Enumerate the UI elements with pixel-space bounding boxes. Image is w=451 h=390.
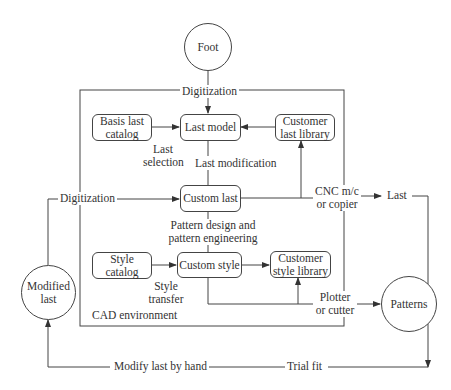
custom-last-label: Custom last	[183, 192, 238, 205]
node-foot: Foot	[184, 23, 232, 71]
modified-last-label: Modified last	[27, 280, 70, 306]
label-digitization-left: Digitization	[58, 192, 117, 205]
label-cnc-or-copier: CNC m/c or copier	[313, 185, 361, 211]
node-customer-last-library: Customer last library	[275, 114, 335, 141]
label-modify-last-by-hand: Modify last by hand	[112, 360, 209, 373]
node-patterns: Patterns	[381, 276, 437, 332]
node-customer-style-library: Customer style library	[270, 251, 331, 278]
label-plotter-or-cutter: Plotter or cutter	[313, 291, 357, 317]
customer-last-library-label: Customer last library	[280, 115, 330, 141]
last-model-label: Last model	[185, 121, 236, 134]
cad-environment-label: CAD environment	[92, 309, 177, 322]
label-last-modification: Last modification	[193, 157, 278, 170]
foot-label: Foot	[197, 41, 218, 54]
node-modified-last: Modified last	[21, 265, 76, 320]
node-custom-style: Custom style	[177, 252, 242, 278]
basis-last-catalog-label: Basis last catalog	[100, 115, 144, 141]
custom-style-label: Custom style	[179, 259, 239, 272]
style-catalog-label: Style catalog	[93, 253, 151, 279]
label-last-selection: Last selection	[143, 143, 183, 169]
label-digitization-top: Digitization	[180, 85, 239, 98]
node-basis-last-catalog: Basis last catalog	[92, 114, 152, 141]
label-pattern-design: Pattern design and pattern engineering	[168, 219, 258, 245]
patterns-label: Patterns	[390, 298, 427, 311]
node-last-model: Last model	[180, 114, 241, 141]
label-last-output: Last	[385, 189, 409, 202]
label-style-transfer: Style transfer	[146, 280, 186, 306]
customer-style-library-label: Customer style library	[273, 252, 328, 278]
node-style-catalog: Style catalog	[92, 252, 152, 279]
label-trial-fit: Trial fit	[285, 360, 324, 373]
node-custom-last: Custom last	[180, 185, 241, 212]
